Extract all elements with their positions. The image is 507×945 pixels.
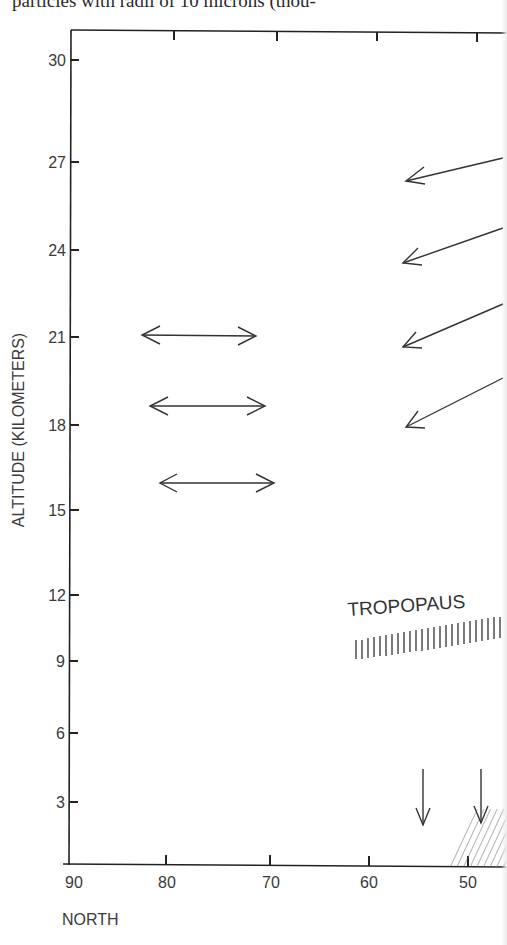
y-tick-label-18: 18 <box>48 417 66 434</box>
hatched-region <box>448 809 507 868</box>
y-tick-label-3: 3 <box>56 794 65 811</box>
arrow-left-icon <box>403 228 503 265</box>
arrow-left-icon <box>403 304 503 348</box>
plot-axes <box>63 30 507 867</box>
y-axis-title: ALTITUDE (KILOMETERS) <box>10 333 27 527</box>
x-tick-label-80: 80 <box>158 874 176 891</box>
arrow-left-icon <box>406 378 503 428</box>
y-tick-label-6: 6 <box>56 725 65 742</box>
double-arrows <box>142 326 274 492</box>
arrow-left-icon <box>406 158 503 184</box>
y-tick-label-27: 27 <box>48 154 66 171</box>
x-tick-label-60: 60 <box>360 874 378 891</box>
page-edge-shadow <box>501 0 507 945</box>
altitude-latitude-chart: 30 27 24 21 18 15 12 9 6 3 ALTITUDE (KIL… <box>0 0 507 945</box>
x-tick-label-90: 90 <box>65 874 83 891</box>
y-tick-label-30: 30 <box>48 52 66 69</box>
top-axis-line <box>71 30 507 33</box>
y-tick-label-24: 24 <box>48 242 66 259</box>
y-tick-label-12: 12 <box>48 587 66 604</box>
double-arrow-icon <box>142 326 256 345</box>
double-arrow-icon <box>160 474 274 492</box>
x-axis-line <box>63 864 507 867</box>
y-tick-label-21: 21 <box>48 329 66 346</box>
x-axis-title: NORTH <box>62 911 119 928</box>
tropopause-label: TROPOPAUS <box>347 591 466 620</box>
y-axis-tick-labels: 30 27 24 21 18 15 12 9 6 3 <box>48 52 66 811</box>
y-tick-label-15: 15 <box>48 502 66 519</box>
x-tick-label-50: 50 <box>459 874 477 891</box>
left-arrows <box>403 158 503 428</box>
tropopause-hatch-marks <box>356 617 500 659</box>
y-tick-label-9: 9 <box>56 653 65 670</box>
arrow-down-icon <box>416 769 430 825</box>
x-tick-label-70: 70 <box>262 874 280 891</box>
y-axis-line <box>69 30 71 865</box>
double-arrow-icon <box>150 397 265 415</box>
x-axis-tick-labels: 90 80 70 60 50 <box>65 874 477 891</box>
